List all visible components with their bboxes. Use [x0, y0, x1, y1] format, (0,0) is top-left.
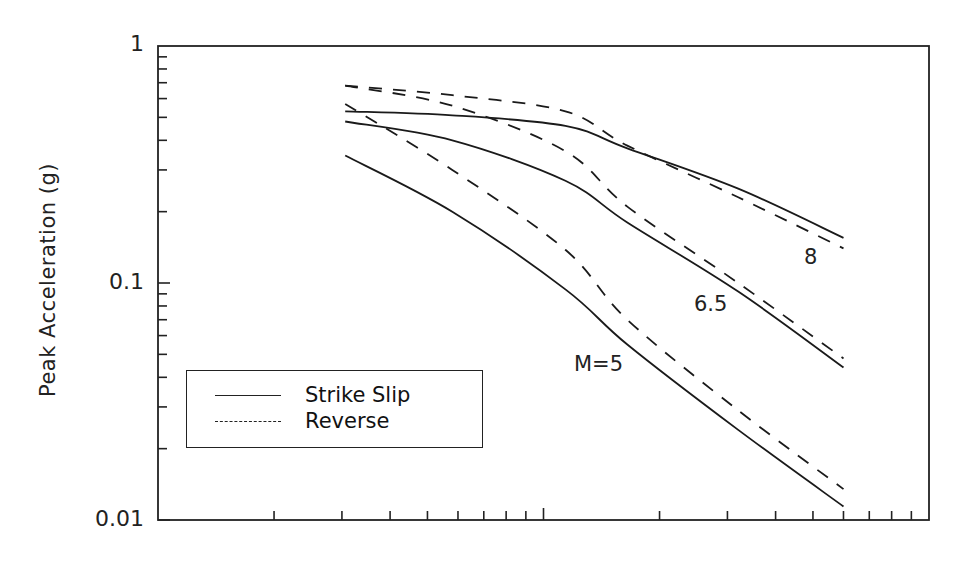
curve-strike-slip-m-6.5	[345, 122, 843, 368]
curve-reverse-m-6.5	[345, 86, 843, 359]
curve-strike-slip-m-5	[345, 156, 843, 507]
y-axis-label: Peak Acceleration (g)	[36, 120, 60, 440]
curve-label-m8: 8	[804, 245, 817, 269]
legend-label-reverse: Reverse	[305, 409, 389, 433]
y-tick-label-0.1: 0.1	[64, 269, 144, 294]
legend: Strike Slip Reverse	[186, 370, 483, 448]
y-tick-label-1: 1	[64, 31, 144, 56]
legend-item-strike-slip: Strike Slip	[187, 383, 410, 407]
curve-reverse-m-8	[345, 86, 843, 249]
dashed-line-swatch	[215, 421, 281, 422]
plot-frame	[158, 46, 929, 520]
y-tick-label-0.01: 0.01	[64, 506, 144, 531]
x-axis-ticks	[274, 508, 911, 520]
legend-label-strike-slip: Strike Slip	[305, 383, 410, 407]
curve-label-m5: M=5	[574, 352, 623, 376]
y-axis-ticks	[158, 57, 170, 520]
chart-canvas	[0, 0, 961, 567]
legend-item-reverse: Reverse	[187, 409, 389, 433]
solid-line-swatch	[215, 395, 281, 396]
curve-label-m6.5: 6.5	[694, 292, 727, 316]
